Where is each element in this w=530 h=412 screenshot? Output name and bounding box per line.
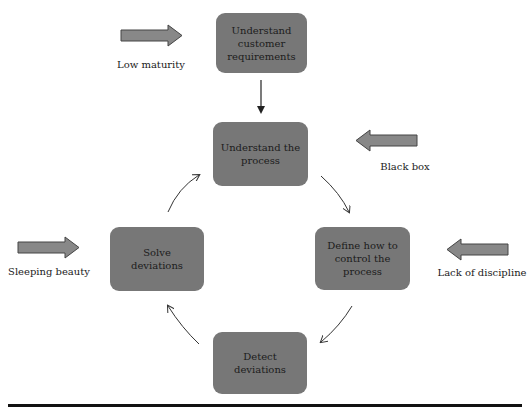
pitfall-arrow-low-maturity-icon <box>121 25 182 46</box>
flow-arrow-process-to-control <box>321 176 349 212</box>
flow-arrow-detect-to-solve <box>168 306 199 344</box>
step-label: Detect deviations <box>219 350 301 376</box>
step-label: Define how to control the process <box>321 239 404 278</box>
pitfall-label-lack-of-discipline: Lack of discipline <box>437 267 526 278</box>
flow-arrow-solve-to-process <box>168 175 199 212</box>
pitfall-arrow-lack-of-discipline-icon <box>447 239 508 260</box>
step-box-understand-customer-requirements: Understand customer requirements <box>216 13 307 73</box>
step-box-define-how-to-control: Define how to control the process <box>315 227 410 290</box>
pitfall-label-sleeping-beauty: Sleeping beauty <box>8 266 90 277</box>
pitfall-arrow-black-box-icon <box>356 130 417 151</box>
pitfall-arrow-sleeping-beauty-icon <box>18 237 79 258</box>
step-label: Solve deviations <box>116 246 198 272</box>
pitfall-label-low-maturity: Low maturity <box>117 59 185 70</box>
step-box-understand-the-process: Understand the process <box>213 122 308 186</box>
bottom-rule-divider <box>8 404 522 407</box>
step-label: Understand customer requirements <box>222 24 301 63</box>
pitfall-label-black-box: Black box <box>380 161 429 172</box>
step-box-solve-deviations: Solve deviations <box>110 227 204 291</box>
flow-arrow-control-to-detect <box>321 306 352 342</box>
step-box-detect-deviations: Detect deviations <box>213 332 307 394</box>
step-label: Understand the process <box>219 141 302 167</box>
